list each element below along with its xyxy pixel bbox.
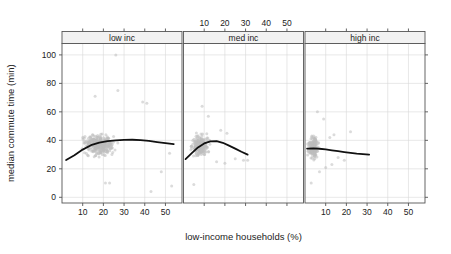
ytick-label-40: 40: [47, 135, 57, 145]
data-point: [197, 139, 200, 142]
data-point-outlier: [104, 182, 107, 185]
data-point-outlier: [225, 132, 228, 135]
data-point: [200, 135, 203, 138]
xtick-label-bottom-50: 50: [161, 207, 171, 217]
xtick-label-bottom-20: 20: [99, 207, 109, 217]
xtick-label-bottom-50: 50: [404, 207, 414, 217]
data-point: [200, 149, 203, 152]
data-point-outlier: [223, 162, 226, 165]
data-point: [112, 135, 115, 138]
ytick-label-80: 80: [47, 78, 57, 88]
strip-label-med-inc: med inc: [229, 33, 260, 43]
data-point: [87, 154, 90, 157]
panel-low-inc: [62, 44, 182, 204]
data-point-outlier: [108, 182, 111, 185]
data-point: [195, 135, 198, 138]
ytick-label-0: 0: [51, 192, 56, 202]
data-point: [203, 148, 206, 151]
data-point: [99, 151, 102, 154]
xtick-label-bottom-20: 20: [342, 207, 352, 217]
data-point: [309, 144, 312, 147]
xtick-label-top-10: 10: [199, 18, 209, 28]
data-point: [90, 137, 93, 140]
trellis-scatter-plot: low inc1020304050med inc1020304050high i…: [0, 0, 451, 254]
data-point: [314, 142, 317, 145]
strip-label-low-inc: low inc: [109, 33, 136, 43]
data-point: [95, 151, 98, 154]
data-point-outlier: [149, 190, 152, 193]
data-point: [92, 150, 95, 153]
data-point-outlier: [114, 53, 117, 56]
data-point-outlier: [328, 136, 331, 139]
data-point-outlier: [242, 159, 245, 162]
data-point: [101, 133, 104, 136]
y-axis-title: median commute time (min): [5, 64, 16, 182]
data-point-outlier: [246, 159, 249, 162]
data-point: [313, 151, 316, 154]
panel-background: [62, 44, 182, 204]
xtick-label-bottom-40: 40: [383, 207, 393, 217]
data-point-outlier: [141, 100, 144, 103]
data-point-outlier: [207, 115, 210, 118]
data-point: [98, 156, 101, 159]
data-point-outlier: [170, 184, 173, 187]
data-point-outlier: [332, 133, 335, 136]
data-point: [99, 135, 102, 138]
data-point: [194, 142, 197, 145]
data-point: [192, 154, 195, 157]
data-point: [114, 148, 117, 151]
data-point-outlier: [116, 89, 119, 92]
panel-background: [184, 44, 304, 204]
data-point: [110, 153, 113, 156]
xtick-label-top-30: 30: [241, 18, 251, 28]
data-point: [207, 150, 210, 153]
panel-med-inc: [184, 44, 304, 204]
data-point: [83, 151, 86, 154]
data-point: [94, 135, 97, 138]
data-point: [306, 154, 309, 157]
xtick-label-bottom-40: 40: [140, 207, 150, 217]
ytick-label-60: 60: [47, 107, 57, 117]
data-point: [88, 149, 91, 152]
data-point: [314, 138, 317, 141]
xtick-label-top-20: 20: [220, 18, 230, 28]
data-point-outlier: [160, 170, 163, 173]
data-point: [81, 136, 84, 139]
data-point-outlier: [219, 129, 222, 132]
data-point: [190, 145, 193, 148]
ytick-label-20: 20: [47, 164, 57, 174]
data-point-outlier: [94, 95, 97, 98]
x-axis-title: low-income households (%): [185, 231, 302, 242]
ytick-label-100: 100: [42, 50, 56, 60]
data-point-outlier: [337, 156, 340, 159]
data-point: [205, 137, 208, 140]
xtick-label-bottom-10: 10: [321, 207, 331, 217]
xtick-label-bottom-30: 30: [119, 207, 129, 217]
data-point: [205, 132, 208, 135]
data-point-outlier: [343, 159, 346, 162]
data-point: [116, 142, 119, 145]
data-point-outlier: [349, 130, 352, 133]
panel-high-inc: [305, 44, 425, 204]
xtick-label-top-40: 40: [262, 18, 272, 28]
data-point: [195, 151, 198, 154]
data-point: [195, 132, 198, 135]
data-point-outlier: [234, 157, 237, 160]
panel-background: [305, 44, 425, 204]
data-point-outlier: [215, 160, 218, 163]
data-point-outlier: [145, 102, 148, 105]
xtick-label-top-50: 50: [282, 18, 292, 28]
data-point: [100, 147, 103, 150]
data-point-outlier: [310, 182, 313, 185]
xtick-label-bottom-30: 30: [362, 207, 372, 217]
xtick-label-bottom-10: 10: [78, 207, 88, 217]
data-point-outlier: [330, 163, 333, 166]
data-point: [84, 141, 87, 144]
data-point-outlier: [322, 117, 325, 120]
data-point: [103, 154, 106, 157]
data-point-outlier: [168, 152, 171, 155]
data-point: [309, 137, 312, 140]
data-point-outlier: [318, 170, 321, 173]
data-point-outlier: [316, 110, 319, 113]
data-point-outlier: [201, 105, 204, 108]
